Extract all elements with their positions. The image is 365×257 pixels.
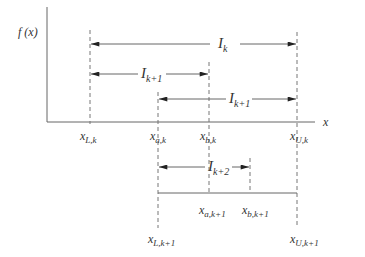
- label-xLk: xL,k: [80, 130, 97, 145]
- label-Ik: Ik: [218, 36, 227, 54]
- label-Ik1-bottom: Ik+1: [229, 91, 250, 109]
- label-Ik1-top: Ik+1: [141, 66, 162, 84]
- y-axis-label: f (x): [18, 26, 38, 38]
- label-xLk1: xL,k+1: [148, 233, 175, 248]
- label-xak1: xa,k+1: [199, 204, 226, 219]
- label-xUk1: xU,k+1: [290, 233, 319, 248]
- label-xbk: xb,k: [200, 130, 216, 145]
- label-Ik2: Ik+2: [208, 159, 229, 177]
- label-xbk1: xb,k+1: [242, 204, 269, 219]
- label-xak: xa,k: [150, 130, 166, 145]
- x-axis-label: x: [323, 116, 328, 128]
- label-xUk: xU,k: [290, 130, 308, 145]
- interval-diagram: [0, 0, 365, 257]
